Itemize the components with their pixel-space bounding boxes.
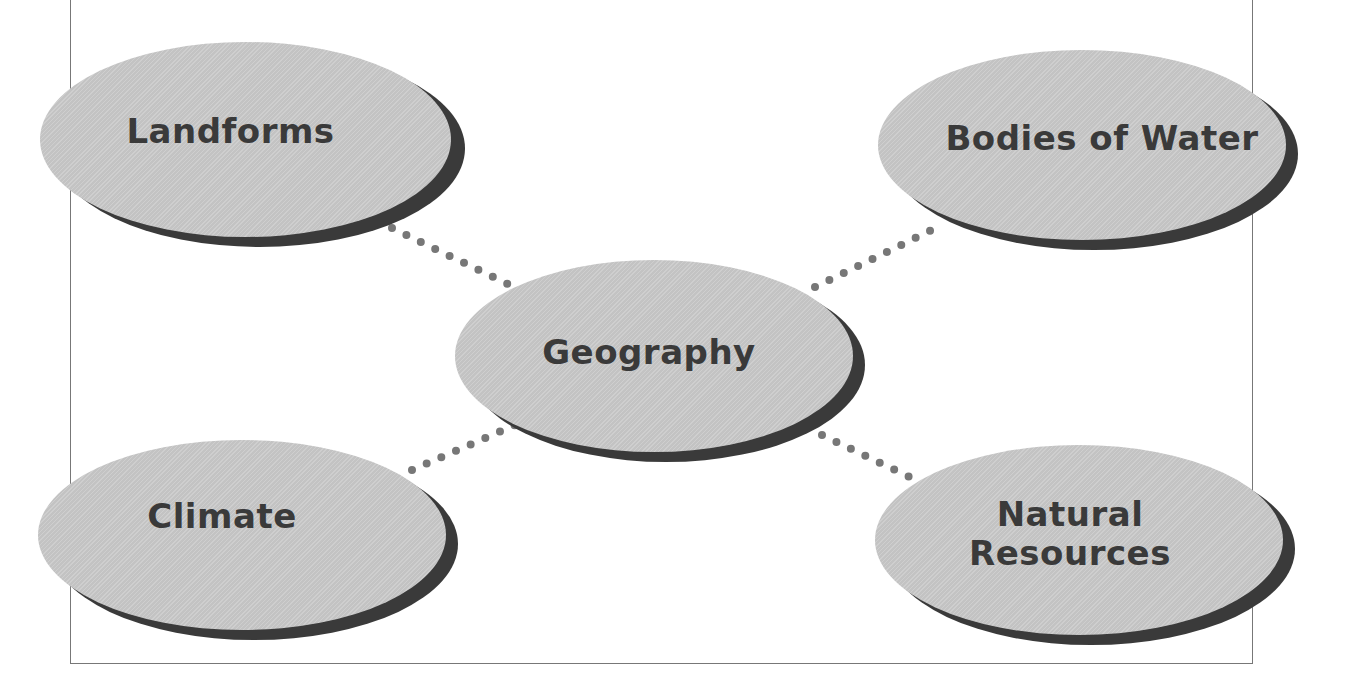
ellipse: Geography <box>455 260 853 452</box>
node-label-line1: Natural <box>997 495 1144 534</box>
node-geography[interactable]: Geography <box>455 260 865 462</box>
node-landforms: Landforms <box>40 42 465 247</box>
ellipse: Climate <box>38 440 446 630</box>
node-label: Climate <box>147 497 296 536</box>
ellipse: Bodies of Water <box>878 50 1286 240</box>
node-label: Geography <box>542 333 756 372</box>
node-label: Bodies of Water <box>945 119 1258 158</box>
node-bodies-of-water: Bodies of Water <box>878 50 1298 250</box>
node-label: Landforms <box>126 112 334 151</box>
ellipse: Natural Resources <box>875 445 1283 635</box>
node-natural-resources: Natural Resources <box>875 445 1295 645</box>
node-climate: Climate <box>38 440 458 640</box>
node-label-line2: Resources <box>969 534 1171 573</box>
ellipse: Landforms <box>40 42 451 237</box>
